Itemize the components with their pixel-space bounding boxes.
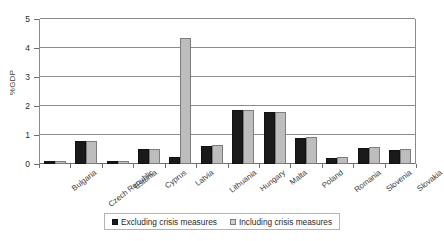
bar-group bbox=[201, 19, 223, 164]
chart-legend: Excluding crisis measuresIncluding crisi… bbox=[104, 213, 340, 230]
bar-group bbox=[232, 19, 254, 164]
bar bbox=[149, 149, 160, 164]
x-axis-labels: BulgariaCzech RepublicEstoniaCyprusLatvi… bbox=[39, 164, 416, 208]
bar-group bbox=[295, 19, 317, 164]
bar bbox=[358, 148, 369, 164]
bar bbox=[369, 147, 380, 164]
bar bbox=[86, 141, 97, 164]
bar bbox=[201, 146, 212, 164]
bar-group bbox=[44, 19, 66, 164]
bar bbox=[180, 38, 191, 164]
y-tick-label-5: 5 bbox=[0, 14, 30, 24]
bar bbox=[275, 112, 286, 164]
y-tick-label-3: 3 bbox=[0, 72, 30, 82]
bars-layer bbox=[39, 19, 416, 164]
x-tick-label: Slovenia bbox=[384, 168, 413, 194]
x-tick-label: Malta bbox=[288, 168, 309, 187]
bar bbox=[75, 141, 86, 164]
bar-group bbox=[358, 19, 380, 164]
legend-item[interactable]: Excluding crisis measures bbox=[112, 217, 217, 227]
bar bbox=[295, 138, 306, 164]
y-tick-label-2: 2 bbox=[0, 101, 30, 111]
bar bbox=[389, 150, 400, 165]
bar bbox=[138, 149, 149, 164]
x-tick-label: Hungary bbox=[258, 168, 287, 193]
y-tick-label-4: 4 bbox=[0, 43, 30, 53]
bar-group bbox=[138, 19, 160, 164]
legend-label: Excluding crisis measures bbox=[121, 217, 217, 227]
x-tick-label: Bulgaria bbox=[70, 168, 98, 193]
legend-item[interactable]: Including crisis measures bbox=[230, 217, 332, 227]
bar bbox=[264, 112, 275, 164]
legend-swatch-icon bbox=[230, 219, 236, 225]
legend-label: Including crisis measures bbox=[239, 217, 332, 227]
bar bbox=[337, 157, 348, 164]
x-tick-mark bbox=[416, 164, 417, 168]
x-tick-label: Cyprus bbox=[163, 168, 188, 190]
bar bbox=[212, 145, 223, 164]
x-tick-label: Romania bbox=[353, 168, 383, 194]
y-tick-label-1: 1 bbox=[0, 130, 30, 140]
bar-group bbox=[169, 19, 191, 164]
bar-group bbox=[264, 19, 286, 164]
legend-swatch-icon bbox=[112, 219, 118, 225]
bar bbox=[169, 157, 180, 164]
x-tick-label: Lithuania bbox=[227, 168, 257, 195]
bar bbox=[232, 110, 243, 164]
x-tick-label: Slovakia bbox=[416, 168, 444, 193]
bar-group bbox=[75, 19, 97, 164]
bar bbox=[306, 137, 317, 164]
bar-group bbox=[107, 19, 129, 164]
y-tick-label-0: 0 bbox=[0, 159, 30, 169]
bar bbox=[243, 110, 254, 164]
x-tick-label: Poland bbox=[320, 168, 345, 190]
bar-group bbox=[326, 19, 348, 164]
bar-group bbox=[389, 19, 411, 164]
x-tick-label: Latvia bbox=[194, 168, 216, 188]
bar bbox=[400, 149, 411, 164]
